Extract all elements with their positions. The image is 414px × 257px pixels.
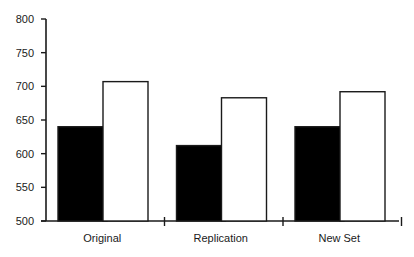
bar-series bbox=[58, 82, 385, 221]
category-label: Original bbox=[83, 232, 121, 244]
y-axis: 500550600650700750800 bbox=[16, 13, 46, 227]
category-labels: OriginalReplicationNew Set bbox=[83, 232, 360, 244]
bar-new-set-white bbox=[340, 92, 385, 221]
category-label: Replication bbox=[194, 232, 248, 244]
y-tick-label: 550 bbox=[16, 181, 34, 193]
y-tick-label: 700 bbox=[16, 80, 34, 92]
bar-original-black bbox=[58, 127, 107, 221]
bar-new-set-black bbox=[295, 127, 344, 221]
y-tick-label: 500 bbox=[16, 215, 34, 227]
category-label: New Set bbox=[318, 232, 360, 244]
y-tick-label: 800 bbox=[16, 13, 34, 25]
bar-replication-black bbox=[177, 146, 226, 221]
y-tick-label: 650 bbox=[16, 114, 34, 126]
bar-original-white bbox=[103, 82, 148, 221]
bar-chart: 500550600650700750800 OriginalReplicatio… bbox=[0, 0, 414, 257]
y-tick-label: 750 bbox=[16, 47, 34, 59]
bar-replication-white bbox=[222, 98, 267, 221]
y-tick-label: 600 bbox=[16, 148, 34, 160]
